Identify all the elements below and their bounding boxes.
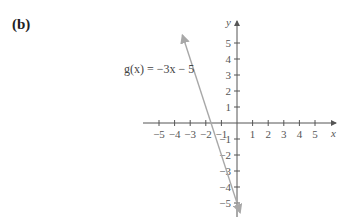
y-tick-label: 3: [226, 69, 232, 81]
x-axis-label: x: [330, 127, 336, 139]
y-tick-label: 5: [226, 37, 232, 49]
function-label: g(x) = −3x − 5: [124, 62, 194, 76]
x-tick-label: −5: [153, 128, 165, 140]
x-tick-label: 3: [281, 128, 287, 140]
axes: [143, 21, 336, 217]
y-tick-label: 2: [226, 85, 232, 97]
coordinate-plane: −5−4−3−2−112345−5−4−3−2−112345 xyg(x) = …: [0, 0, 354, 219]
function-line-upper: [182, 35, 211, 124]
x-tick-label: −3: [184, 128, 196, 140]
y-tick-label: −5: [219, 197, 231, 209]
x-tick-label: 1: [250, 128, 256, 140]
x-tick-label: 4: [297, 128, 303, 140]
x-tick-label: 5: [312, 128, 318, 140]
x-tick-label: −2: [200, 128, 212, 140]
y-tick-label: −1: [219, 133, 231, 145]
y-axis-label: y: [225, 16, 231, 28]
y-tick-label: 1: [226, 101, 232, 113]
y-tick-label: −4: [219, 181, 231, 193]
y-tick-label: 4: [226, 53, 232, 65]
x-tick-label: −4: [169, 128, 181, 140]
x-tick-label: 2: [265, 128, 271, 140]
